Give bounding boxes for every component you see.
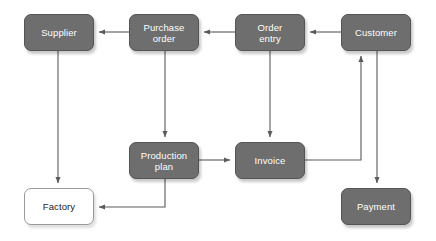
node-factory-label: Factory — [40, 201, 78, 212]
node-production-plan-label: Production plan — [138, 150, 190, 172]
node-invoice[interactable]: Invoice — [235, 142, 305, 179]
node-order-entry[interactable]: Order entry — [235, 14, 305, 51]
node-payment-label: Payment — [354, 201, 398, 212]
node-invoice-label: Invoice — [252, 155, 289, 166]
node-purchase-order[interactable]: Purchase order — [129, 14, 199, 51]
node-production-plan[interactable]: Production plan — [129, 142, 199, 179]
node-factory[interactable]: Factory — [24, 188, 94, 225]
node-customer[interactable]: Customer — [341, 14, 411, 51]
node-order-entry-label: Order entry — [255, 22, 286, 44]
process-flow-diagram: Supplier Purchase order Order entry Cust… — [0, 0, 436, 241]
node-supplier-label: Supplier — [38, 27, 80, 38]
node-customer-label: Customer — [352, 27, 400, 38]
node-purchase-order-label: Purchase order — [141, 22, 188, 44]
node-supplier[interactable]: Supplier — [24, 14, 94, 51]
edge-production-plan-to-factory — [99, 179, 165, 207]
node-payment[interactable]: Payment — [341, 188, 411, 225]
edge-invoice-to-customer — [305, 56, 361, 160]
